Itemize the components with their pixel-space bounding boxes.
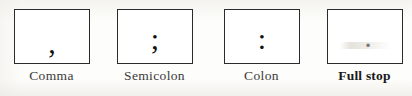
punctuation-item-semicolon: ; Semicolon <box>103 0 206 96</box>
colon-box: : <box>224 9 300 64</box>
semicolon-box: ; <box>117 9 193 64</box>
colon-label: Colon <box>210 68 313 84</box>
semicolon-mark-icon: ; <box>118 24 192 54</box>
comma-label: Comma <box>0 68 103 84</box>
punctuation-marks-figure: , Comma ; Semicolon : Colon . Full stop <box>0 0 412 96</box>
comma-mark-icon: , <box>15 28 89 58</box>
punctuation-item-comma: , Comma <box>0 0 103 96</box>
punctuation-item-colon: : Colon <box>210 0 313 96</box>
punctuation-item-full-stop: . Full stop <box>313 0 412 96</box>
full-stop-box: . <box>327 9 403 64</box>
full-stop-mark-icon: . <box>328 22 402 52</box>
semicolon-label: Semicolon <box>103 68 206 84</box>
full-stop-label: Full stop <box>313 68 412 84</box>
colon-mark-icon: : <box>225 24 299 54</box>
comma-box: , <box>14 9 90 64</box>
